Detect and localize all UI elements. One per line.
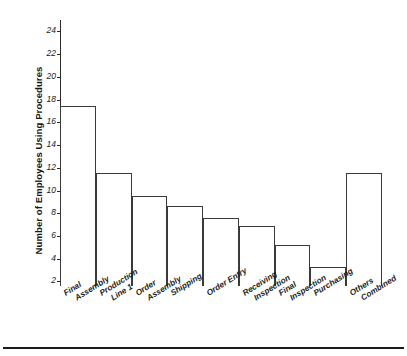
y-axis-tick-label: 18	[34, 95, 56, 104]
bar-chart-figure: Number of Employees Using Procedures 246…	[0, 0, 407, 356]
y-axis-tick-label: 8	[34, 208, 56, 217]
plot-area	[60, 20, 382, 286]
y-axis-tick-mark	[57, 100, 60, 101]
y-axis-tick-label: 4	[34, 254, 56, 263]
y-axis-tick-label: 22	[34, 49, 56, 58]
y-axis-tick-label: 2	[34, 276, 56, 285]
y-axis-tick-labels: 24681012141618202224	[30, 0, 56, 356]
y-axis-tick-label: 16	[34, 117, 56, 126]
y-axis-tick-label: 12	[34, 163, 56, 172]
bar	[60, 106, 96, 286]
y-axis-tick-label: 10	[34, 186, 56, 195]
y-axis-tick-mark	[57, 54, 60, 55]
y-axis-tick-mark	[57, 77, 60, 78]
y-axis-tick-mark	[57, 31, 60, 32]
y-axis-tick-label: 20	[34, 72, 56, 81]
y-axis-tick-label: 24	[34, 26, 56, 35]
bottom-divider-rule	[3, 347, 404, 349]
y-axis-tick-label: 6	[34, 231, 56, 240]
x-axis-category-labels: FinalAssemblyProductionLine 1OrderAssemb…	[60, 290, 400, 350]
y-axis-tick-label: 14	[34, 140, 56, 149]
